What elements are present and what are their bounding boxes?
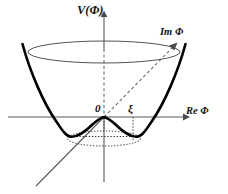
origin-label: 0	[95, 103, 101, 114]
imaginary-axis-solid-segment	[36, 117, 104, 186]
real-axis-label: Re Φ	[186, 106, 209, 117]
vev-label: ξ	[128, 103, 133, 114]
vertical-axis-label: V(Φ)	[77, 4, 104, 17]
potential-diagram-svg	[0, 0, 228, 194]
mexican-hat-potential-figure: V(Φ) Im Φ Re Φ 0 ξ	[0, 0, 228, 194]
imaginary-axis-label: Im Φ	[160, 27, 183, 38]
vertical-axis-group	[101, 11, 108, 183]
